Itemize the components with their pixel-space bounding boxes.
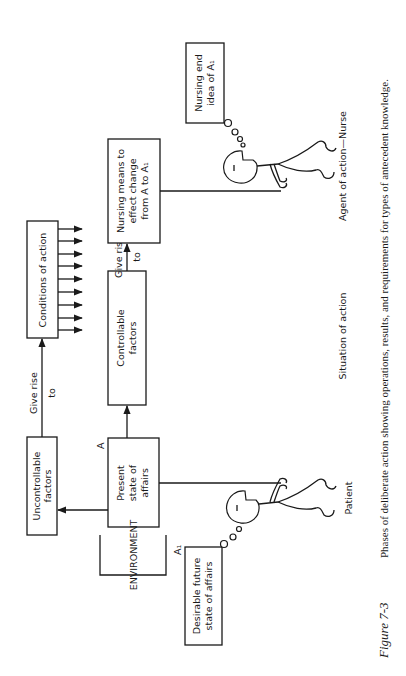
svg-text:Present: Present: [115, 465, 126, 501]
svg-text:to: to: [131, 252, 142, 262]
svg-text:idea of A₁: idea of A₁: [205, 60, 216, 106]
svg-text:to: to: [46, 388, 57, 398]
nursing-means-box: Nursing means to effect change from A to…: [108, 139, 160, 243]
nurse-figure: Agent of action—Nurse: [224, 111, 348, 221]
svg-text:effect change: effect change: [127, 158, 138, 223]
patient-label: Patient: [343, 481, 354, 514]
svg-text:Conditions of action: Conditions of action: [37, 233, 48, 328]
svg-text:Nursing means to: Nursing means to: [115, 149, 126, 233]
svg-text:state of: state of: [127, 464, 138, 501]
agent-label: Agent of action—Nurse: [337, 111, 348, 221]
svg-text:from A to A₁: from A to A₁: [139, 162, 150, 220]
uncontrollable-factors-box: Uncontrollable factors: [27, 437, 57, 535]
svg-text:Controllable: Controllable: [115, 309, 126, 366]
environment-bracket: ENVIRONMENT: [100, 519, 166, 590]
svg-text:state of affairs: state of affairs: [203, 561, 214, 630]
deliberate-action-diagram: Uncontrollable factors Give rise to Cond…: [0, 0, 406, 676]
svg-text:affairs: affairs: [139, 468, 150, 498]
svg-text:Give rise: Give rise: [28, 372, 39, 414]
environment-label: ENVIRONMENT: [128, 519, 139, 590]
controllable-factors-box: Controllable factors: [108, 271, 146, 405]
situation-label: Situation of action: [337, 293, 348, 380]
svg-text:Desirable future: Desirable future: [191, 558, 202, 635]
svg-text:Nursing end: Nursing end: [193, 54, 204, 112]
svg-text:factors: factors: [127, 322, 138, 355]
nurse-thought-bubbles: [225, 120, 246, 148]
uncontrollable-line-1: Uncontrollable: [31, 451, 42, 520]
marker-a: A: [95, 442, 106, 449]
desirable-future-box: Desirable future state of affairs: [185, 547, 222, 645]
nursing-end-idea-box: Nursing end idea of A₁: [186, 43, 224, 123]
figure-number: Figure 7-3: [376, 602, 391, 659]
figure-caption: Phases of deliberate action showing oper…: [378, 79, 390, 558]
marker-a1: A₁: [172, 545, 183, 555]
patient-figure: Patient: [227, 478, 354, 523]
present-state-box: Present state of affairs: [108, 438, 159, 527]
conditions-arrows: [58, 229, 82, 330]
conditions-of-action-box: Conditions of action: [27, 221, 58, 338]
figure-stage: Uncontrollable factors Give rise to Cond…: [0, 0, 406, 676]
uncontrollable-line-2: factors: [42, 470, 53, 503]
